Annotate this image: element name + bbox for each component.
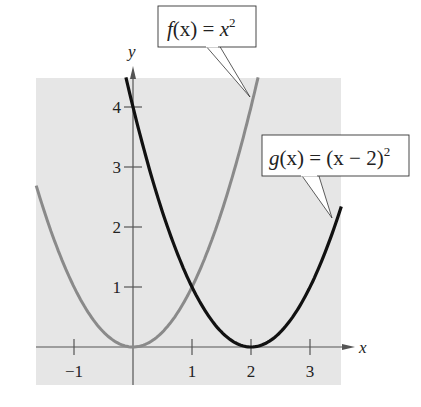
y-axis-arrow-icon [130,66,136,79]
chart: −11231234 x y f(x) = x2 g(x) = (x − 2)2 [0,0,421,407]
x-axis-arrow-icon [342,344,355,350]
x-tick-label: 1 [188,362,197,381]
y-tick-label: 3 [113,158,122,177]
y-axis-label: y [126,42,136,61]
y-tick-label: 4 [113,98,122,117]
y-tick-label: 1 [113,278,122,297]
x-tick-label: −1 [65,362,83,381]
x-tick-label: 3 [306,362,315,381]
g-callout-label: g(x) = (x − 2)2 [269,144,390,170]
x-tick-label: 2 [247,362,256,381]
x-axis-label: x [358,338,367,357]
plot-background [36,78,341,385]
f-callout-label: f(x) = x2 [167,15,236,41]
y-tick-label: 2 [113,218,122,237]
